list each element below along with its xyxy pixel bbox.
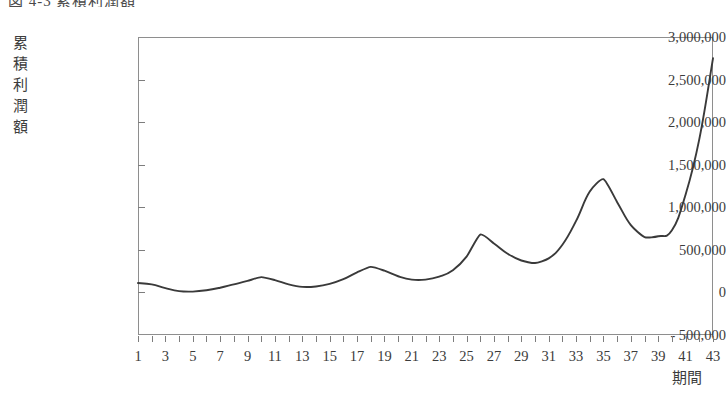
data-series-line (138, 58, 713, 291)
figure-container: 図 4-3 累積利潤額 累 積 利 潤 額 期間 3,000,0002,500,… (0, 0, 726, 394)
data-line-layer (0, 0, 726, 394)
